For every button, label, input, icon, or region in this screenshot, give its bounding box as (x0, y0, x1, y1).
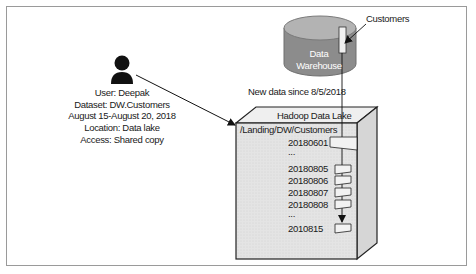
dw-label-line1: Data (286, 48, 352, 60)
data-lake-title: Hadoop Data Lake (277, 110, 351, 121)
data-warehouse-label: Data Warehouse (286, 48, 352, 72)
landing-path: /Landing/DW/Customers (240, 124, 337, 135)
customers-label: Customers (366, 13, 409, 24)
partition-2010815: 2010815 (288, 223, 323, 234)
partition-20180805: 20180805 (288, 163, 328, 174)
dw-label-line2: Warehouse (286, 60, 352, 72)
user-access-details: User: Deepak Dataset: DW.Customers Augus… (64, 87, 180, 146)
partition-ellipsis: ... (288, 148, 295, 156)
date-range: August 15-August 20, 2018 (64, 110, 180, 122)
new-data-label: New data since 8/5/2018 (248, 86, 346, 97)
partition-ellipsis-2: ... (288, 210, 295, 218)
user-name: User: Deepak (64, 87, 180, 99)
partition-20180807: 20180807 (288, 187, 328, 198)
person-icon (111, 56, 133, 85)
partition-20180806: 20180806 (288, 175, 328, 186)
dataset-name: Dataset: DW.Customers (64, 99, 180, 111)
location: Location: Data lake (64, 122, 180, 134)
access-type: Access: Shared copy (64, 134, 180, 146)
